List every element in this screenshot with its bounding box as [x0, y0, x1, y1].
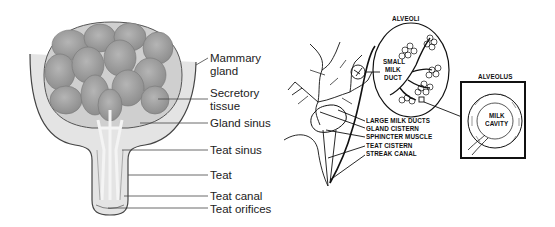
duct-system-illustration: [280, 0, 555, 227]
label-gland-cistern: GLAND CISTERN: [366, 125, 419, 133]
label-secretory-tissue-line2: tissue: [210, 100, 240, 113]
label-milk-cavity-line1: MILK: [489, 112, 505, 120]
label-streak-canal: STREAK CANAL: [366, 150, 417, 158]
label-mammary-gland-line2: gland: [210, 65, 238, 78]
label-teat-orifices: Teat orifices: [210, 203, 271, 216]
label-sphincter-muscle: SPHINCTER MUSCLE: [366, 133, 432, 141]
label-mammary-gland-line1: Mammary: [210, 52, 261, 65]
label-milk-cavity-line2: CAVITY: [485, 120, 508, 128]
label-small-milk-duct-line1: SMALL: [383, 58, 405, 66]
label-large-milk-ducts: LARGE MILK DUCTS: [366, 117, 430, 125]
label-gland-sinus: Gland sinus: [210, 117, 271, 130]
label-teat: Teat: [210, 169, 232, 182]
label-secretory-tissue-line1: Secretory: [210, 87, 259, 100]
label-small-milk-duct-line3: DUCT: [384, 74, 402, 82]
label-teat-canal: Teat canal: [210, 190, 262, 203]
udder-cross-section-diagram: Mammary gland Secretory tissue Gland sin…: [0, 0, 280, 227]
title-alveoli: ALVEOLI: [392, 15, 419, 23]
label-teat-cistern: TEAT CISTERN: [366, 142, 412, 150]
label-small-milk-duct-line2: MILK: [385, 66, 401, 74]
milk-duct-system-diagram: ALVEOLI ALVEOLUS SMALL MILK DUCT MILK CA…: [280, 0, 555, 227]
label-teat-sinus: Teat sinus: [210, 144, 262, 157]
title-alveolus: ALVEOLUS: [478, 73, 513, 81]
